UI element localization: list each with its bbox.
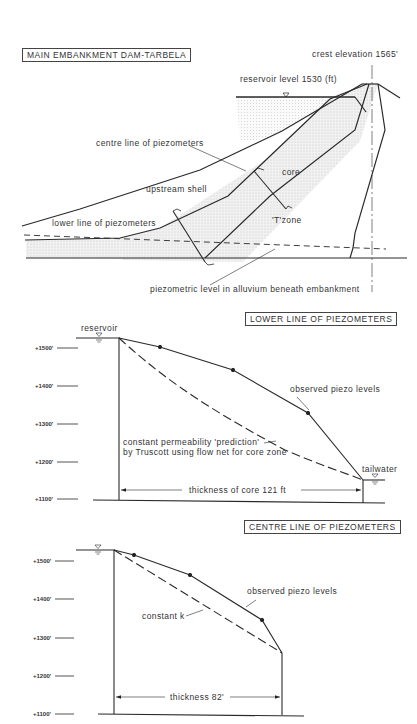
- dam-cross-section: [22, 65, 407, 292]
- alluvium-label: piezometric level in alluvium beneath em…: [150, 284, 360, 294]
- tick-1400: +1400': [35, 383, 53, 389]
- tick-1100-c: +1100': [33, 711, 51, 717]
- tick-1200-c: +1200': [33, 673, 51, 679]
- tick-1500: +1500': [35, 345, 53, 351]
- reservoir-label: reservoir: [81, 323, 118, 333]
- upstream-shell-label: upstream shell: [146, 184, 207, 194]
- constant-k-line-centre: [114, 550, 282, 653]
- crest-elevation-label: crest elevation 1565': [312, 49, 398, 59]
- centre-line-label: centre line of piezometers: [96, 138, 204, 148]
- lower-line-chart: [57, 333, 385, 503]
- observed-label-lower: observed piezo levels: [290, 384, 380, 394]
- tick-1300-c: +1300': [33, 635, 51, 641]
- tick-1100: +1100': [35, 496, 53, 502]
- centre-chart-title: CENTRE LINE OF PIEZOMETERS: [244, 520, 401, 534]
- diagram-canvas: [0, 0, 417, 724]
- tailwater-label: tailwater: [362, 464, 397, 474]
- tick-1400-c: +1400': [33, 596, 51, 602]
- observed-piezo-line-lower: [119, 338, 363, 480]
- lower-line-label: lower line of piezometers: [52, 218, 156, 228]
- centre-line-chart: [55, 545, 304, 716]
- reservoir-level-label: reservoir level 1530 (ft): [240, 74, 337, 84]
- tick-1200: +1200': [35, 459, 53, 465]
- tick-1500-c: +1500': [33, 558, 51, 564]
- prediction-label-1: constant permeability 'prediction': [123, 437, 259, 447]
- t-zone-label: 'T'zone: [272, 215, 302, 225]
- lower-chart-title: LOWER LINE OF PIEZOMETERS: [245, 312, 397, 326]
- core-thickness-label: thickness of core 121 ft: [189, 485, 286, 495]
- tick-1300: +1300': [35, 421, 53, 427]
- core-label: core: [282, 167, 300, 177]
- dam-title-box: MAIN EMBANKMENT DAM-TARBELA: [22, 48, 191, 62]
- observed-label-centre: observed piezo levels: [247, 586, 337, 596]
- thickness-82-label: thickness 82': [170, 692, 224, 702]
- constant-k-label: constant k: [142, 611, 185, 621]
- prediction-label-2: by Truscott using flow net for core zone: [123, 447, 287, 457]
- prediction-curve-lower: [119, 338, 363, 480]
